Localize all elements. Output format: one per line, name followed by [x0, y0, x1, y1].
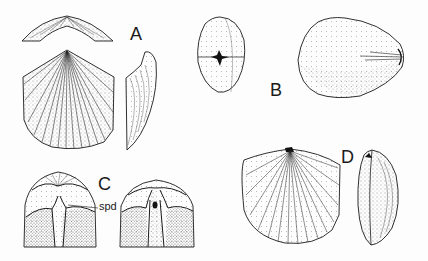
panel-d-lateral-profile — [358, 150, 398, 245]
panel-a-lateral-profile — [126, 52, 156, 150]
annotation-spd: spd — [99, 201, 117, 212]
panel-label-d: D — [341, 148, 354, 166]
panel-c-interior-right — [120, 180, 194, 247]
illustration-canvas — [0, 0, 428, 261]
panel-label-a: A — [130, 25, 142, 43]
panel-label-b: B — [270, 81, 282, 99]
fossil-brachiopod-figure: A B C spd D — [0, 0, 428, 261]
panel-b-dorsal-valve — [298, 18, 404, 98]
panel-label-c: C — [98, 175, 111, 193]
panel-a-hinge-view — [22, 16, 113, 41]
panel-a-dorsal-valve — [23, 50, 114, 149]
panel-b-end-view — [198, 17, 245, 92]
panel-c-interior-left — [24, 172, 98, 247]
panel-d-dorsal-valve — [242, 147, 340, 244]
